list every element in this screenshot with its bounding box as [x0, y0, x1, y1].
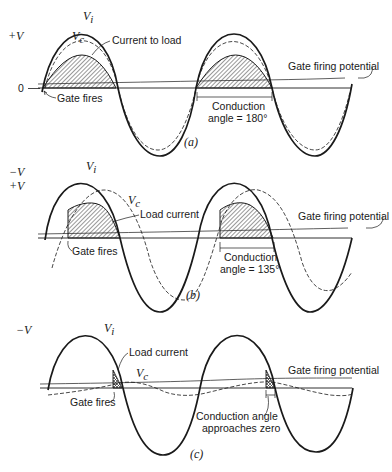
gate-fires-label: Gate fires [72, 245, 118, 257]
panel-label-a: (a) [184, 135, 198, 149]
axis-label-plus-v: +V [8, 29, 25, 43]
conduction-region-2 [196, 55, 272, 88]
axis-label-minus-v: −V [16, 323, 33, 337]
vi-label: Vi [104, 321, 114, 337]
conduction-label-line2: angle = 135° [220, 263, 279, 275]
scr-phase-control-diagram: +V 0 Vi Vc Current to load Gate fires Ga… [0, 0, 392, 472]
panel-a: +V 0 Vi Vc Current to load Gate fires Ga… [8, 9, 379, 156]
conduction-region-1 [68, 203, 120, 238]
panel-c: −V Vi Vc Load current Gate fires Gate fi… [16, 321, 379, 461]
conduction-region-2 [220, 203, 273, 238]
conduction-label-line2: angle = 180° [208, 112, 267, 124]
conduction-label-line1: Conduction [212, 100, 265, 112]
conduction-label-line2: approaches zero [202, 422, 280, 434]
current-to-load-label: Current to load [112, 34, 182, 46]
panel-label-b: (b) [186, 288, 200, 302]
load-current-label: Load current [140, 208, 199, 220]
conduction-label-line1: Conduction angle [196, 410, 278, 422]
axis-label-zero: 0 [18, 82, 24, 94]
axis-label-plus-v: +V [9, 179, 26, 193]
vi-label: Vi [86, 159, 96, 175]
panel-label-c: (c) [190, 447, 203, 461]
gate-fires-label: Gate fires [70, 396, 116, 408]
gate-firing-potential-line [40, 378, 352, 384]
load-current-label: Load current [129, 346, 188, 358]
vc-label: Vc [72, 29, 84, 45]
gate-firing-potential-label: Gate firing potential [288, 364, 379, 376]
vc-label: Vc [136, 366, 148, 382]
vc-label: Vc [128, 193, 140, 209]
gate-fires-label: Gate fires [57, 92, 103, 104]
load-current-leader [118, 353, 128, 370]
gate-firing-potential-label: Gate firing potential [298, 210, 389, 222]
vi-label: Vi [83, 9, 93, 25]
panel-b: −V +V Vi Vc Load current Gate fires Gate… [9, 159, 389, 312]
conduction-label-line1: Conduction [224, 251, 277, 263]
load-current-leader [112, 215, 139, 222]
axis-label-minus-v: −V [9, 165, 26, 179]
conduction-region-1 [43, 55, 116, 88]
gate-firing-potential-label: Gate firing potential [288, 60, 379, 72]
